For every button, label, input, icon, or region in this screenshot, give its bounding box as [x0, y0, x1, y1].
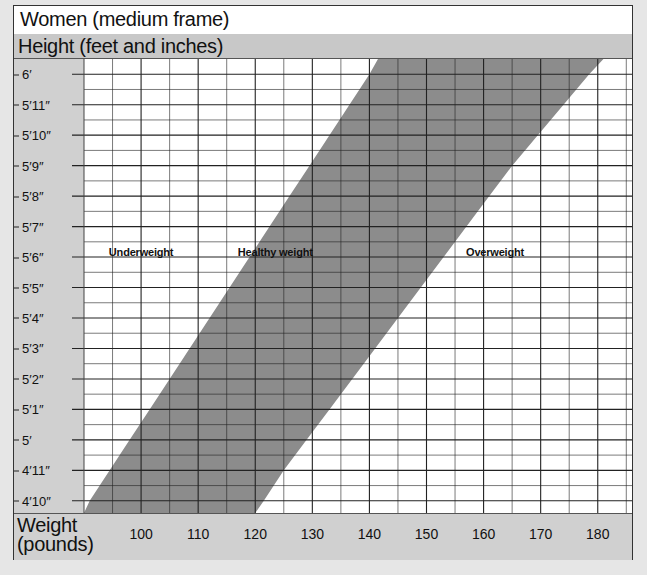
x-tick-label: 180 — [586, 526, 609, 542]
x-axis-bar: Weight (pounds) 100110120130140150160170… — [14, 513, 632, 560]
x-tick-label: 130 — [301, 526, 324, 542]
y-tick-label: 5′1″ — [22, 402, 44, 417]
plot-area — [14, 6, 632, 559]
x-tick-label: 100 — [129, 526, 152, 542]
y-tick-label: 4′11″ — [22, 463, 50, 478]
y-tick-label: 4′10″ — [22, 493, 51, 508]
y-tick-label: 5′6″ — [22, 250, 44, 265]
x-tick-label: 150 — [415, 526, 438, 542]
y-tick-label: 5′3″ — [22, 341, 44, 356]
x-axis-title: Weight (pounds) — [17, 516, 94, 554]
y-tick-label: 5′4″ — [22, 310, 44, 325]
y-tick-label: 5′10″ — [22, 128, 51, 143]
overweight-label: Overweight — [466, 246, 524, 258]
chart-frame: Women (medium frame) Height (feet and in… — [13, 5, 633, 560]
x-tick-label: 140 — [358, 526, 381, 542]
x-tick-label: 110 — [187, 526, 209, 542]
healthy-weight-label: Healthy weight — [238, 246, 313, 258]
y-tick-label: 5′9″ — [22, 158, 44, 173]
y-tick-label: 5′11″ — [22, 97, 50, 112]
y-tick-label: 5′2″ — [22, 371, 44, 386]
x-tick-label: 120 — [244, 526, 267, 542]
y-tick-label: 5′5″ — [22, 280, 44, 295]
x-axis-title-line2: (pounds) — [17, 535, 94, 554]
x-tick-label: 160 — [472, 526, 495, 542]
y-tick-label: 5′7″ — [22, 219, 44, 234]
underweight-label: Underweight — [109, 246, 173, 258]
y-tick-label: 5′ — [22, 432, 32, 447]
x-tick-label: 170 — [529, 526, 552, 542]
y-tick-label: 6′ — [22, 67, 32, 82]
y-tick-label: 5′8″ — [22, 189, 44, 204]
